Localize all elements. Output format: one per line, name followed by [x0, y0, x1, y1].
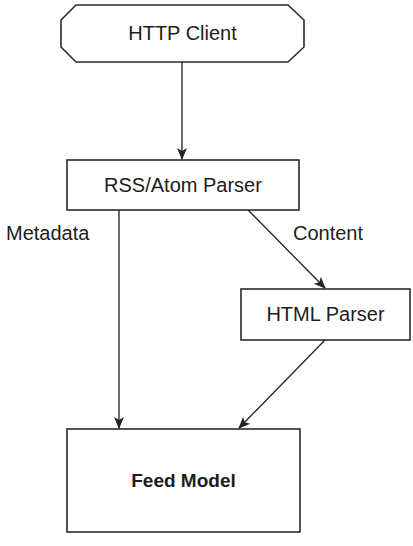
- http-client-label: HTTP Client: [61, 5, 304, 62]
- metadata-edge-label: Metadata: [6, 221, 89, 245]
- feed-model-label: Feed Model: [67, 429, 300, 532]
- content-edge-label: Content: [293, 221, 363, 245]
- html-parser-label: HTML Parser: [241, 289, 410, 340]
- edge-html-to-feed: [239, 340, 325, 428]
- rss-atom-parser-label: RSS/Atom Parser: [67, 160, 299, 210]
